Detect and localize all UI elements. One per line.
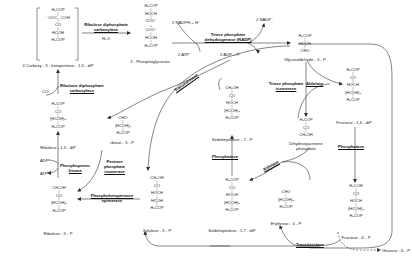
enzyme-label: isomerase bbox=[268, 86, 304, 91]
cofactor-nadp: 2 NADP⁺ bbox=[256, 17, 273, 22]
enzyme-label: Phosphatase bbox=[212, 154, 238, 159]
compound-name-fructose-16-dip: Fructose - 1,6 - diP bbox=[336, 120, 372, 125]
compound-phosphoglycerate: H₂COP| HOCH| COO⁻ + COO⁻| HCOH| H₂COP bbox=[136, 4, 166, 48]
enzyme-rubisco-left: Ribulose diphosphate carboxylase bbox=[60, 83, 104, 93]
enzyme-transketolase-bottom: Transketolase bbox=[296, 242, 324, 247]
compound-sedoheptulose-17-dip: H₂COP| CO| HOCH| (HCOH)₃| H₂COP bbox=[216, 178, 248, 213]
compound-fructose-16-dip: H₂COP| CO| HOCH| (HCOH)₂| H₂COP bbox=[338, 68, 368, 103]
compound-ribose-5p: CHO| (HCOH)₃| H₂COP bbox=[108, 116, 138, 136]
compound-name-sedoheptulose-7p: Sedoheptulose - 7 - P bbox=[212, 137, 253, 142]
enzyme-label: epimerase bbox=[84, 198, 140, 203]
cofactor-adp-pi: 2 ADP + Pᵢ bbox=[220, 52, 240, 57]
compound-xylulose-5p: CH₂OH| CO| HOCH| HCOH| H₂COP bbox=[142, 176, 172, 211]
compound-name-ribulose-5p: Ribulose - 5 - P bbox=[44, 231, 73, 236]
formula-line: H₂COP bbox=[51, 125, 64, 130]
enzyme-phosphatase-right: Phosphatase bbox=[338, 144, 364, 149]
compound-erythrose-4p: CHO| (HCOH)₂| H₂COP bbox=[272, 190, 300, 210]
formula-line: CHO bbox=[301, 49, 310, 54]
enzyme-phosphatase-mid: Phosphatase bbox=[212, 154, 238, 159]
formula-line: H₂COP bbox=[225, 208, 238, 213]
cofactor-co2: CO₂ bbox=[42, 89, 50, 94]
compound-ribulose-15-dip: H₂COP| CO| (HCOH)₂| H₂COP bbox=[43, 102, 73, 129]
compound-ribulose-5p: CH₂OH| CO| (HCOH)₂| H₂COP bbox=[44, 186, 74, 213]
formula-line: H₂COP bbox=[349, 214, 362, 219]
compound-carboxy-ketopentose: H₂COP| ⁻OOC - COH| CO| HCOH| H₂COP bbox=[43, 8, 73, 43]
compound-fructose-6p: H₂COH| CO| HOCH| (HCOH)₂| H₂COP bbox=[341, 184, 371, 219]
formula-line: H₂COP bbox=[225, 116, 238, 121]
compound-name-ribose-5p: ribose - 5 - P bbox=[110, 140, 134, 145]
formula-line: H₂COP bbox=[52, 209, 65, 214]
compound-name-dihydroxyacetone-phosphate: Dihydroxyacetone phosphate bbox=[289, 141, 323, 151]
enzyme-label: isomerase bbox=[104, 169, 125, 174]
enzyme-triose-phosphate-isomerase: Triose phosphate isomerase bbox=[268, 81, 304, 91]
enzyme-triose-phosphate-dehydrogenase: Triose phosphate dehydrogenase (NADP) bbox=[202, 32, 254, 42]
compound-name-erythrose-4p: Erythrose - 4 - P bbox=[271, 221, 301, 226]
compound-name-glyceraldehyde-3p: Glyceraldehyde - 3 - P bbox=[284, 57, 326, 62]
enzyme-label: dehydrogenase (NADP) bbox=[202, 37, 254, 42]
cofactor-atp: 2 ATP bbox=[178, 52, 189, 57]
compound-dihydroxyacetone-phosphate: H₂COP| CO| CH₂OH bbox=[293, 118, 319, 138]
enzyme-phosphopentokinase: Phosphopento- kinase bbox=[60, 163, 91, 173]
formula-line: H₂COP bbox=[144, 44, 157, 49]
formula-line: H₂COP bbox=[51, 38, 64, 43]
cofactor-nadph: 2 NADPH + H⁺ bbox=[172, 20, 200, 25]
formula-line: H₂COP bbox=[150, 206, 163, 211]
enzyme-pentose-phosphate-isomerase: Pentose phosphate isomerase bbox=[104, 159, 125, 174]
enzyme-label: kinase bbox=[60, 168, 91, 173]
enzyme-phosphoketopentose-epimerase: Phosphoketopentose epimerase bbox=[84, 193, 140, 203]
compound-name-fructose-6p: Fructose - 6 - P bbox=[342, 235, 371, 240]
formula-line: H₂COP bbox=[346, 98, 359, 103]
enzyme-rubisco-top: Ribulose diphosphate carboxylase bbox=[84, 22, 128, 32]
enzyme-label: carboxylase bbox=[84, 27, 128, 32]
compound-name-ribulose-15-dip: Ribulose - 1,5 - diP bbox=[40, 145, 76, 150]
formula-line: H₂COP bbox=[116, 131, 129, 136]
enzyme-label: carboxylase bbox=[60, 88, 104, 93]
cofactor-atp-kinase: ATP bbox=[40, 171, 48, 176]
compound-name-sedoheptulose-17-dip: Sedoheptulose - 1,7 - diP bbox=[208, 228, 255, 233]
cofactor-adp: ADP bbox=[40, 158, 49, 163]
enzyme-aldolase-top: Aldolase bbox=[306, 81, 323, 86]
compound-name-glucose-6p: Glucose - 6 - P bbox=[382, 248, 410, 253]
compound-glyceraldehyde-3p: H₂COP| HOCH| CHO bbox=[292, 34, 318, 54]
compound-name-carboxy-ketopentose: 2 Carboxy - 3 - ketopentose - 1,5 - diP bbox=[23, 63, 94, 68]
formula-line: H₂COP bbox=[279, 205, 292, 210]
name-line: phosphate bbox=[289, 146, 323, 151]
cofactor-h2o: H₂O bbox=[98, 36, 114, 41]
enzyme-label: Aldolase bbox=[306, 81, 323, 86]
enzyme-label: Phosphatase bbox=[338, 144, 364, 149]
calvin-cycle-diagram: H₂COP| ⁻OOC - COH| CO| HCOH| H₂COP 2 Car… bbox=[0, 0, 412, 266]
compound-name-phosphoglycerate: 3 - Phosphoglycerate bbox=[130, 59, 170, 64]
compound-name-xylulose-5p: Xylulose - 5 - P bbox=[143, 228, 171, 233]
compound-sedoheptulose-7p: CH₂OH| CO| HOCH| (HCOH)₃| H₂COP bbox=[216, 86, 248, 121]
enzyme-label: Transketolase bbox=[296, 242, 324, 247]
formula-line: CH₂OH bbox=[299, 133, 312, 138]
